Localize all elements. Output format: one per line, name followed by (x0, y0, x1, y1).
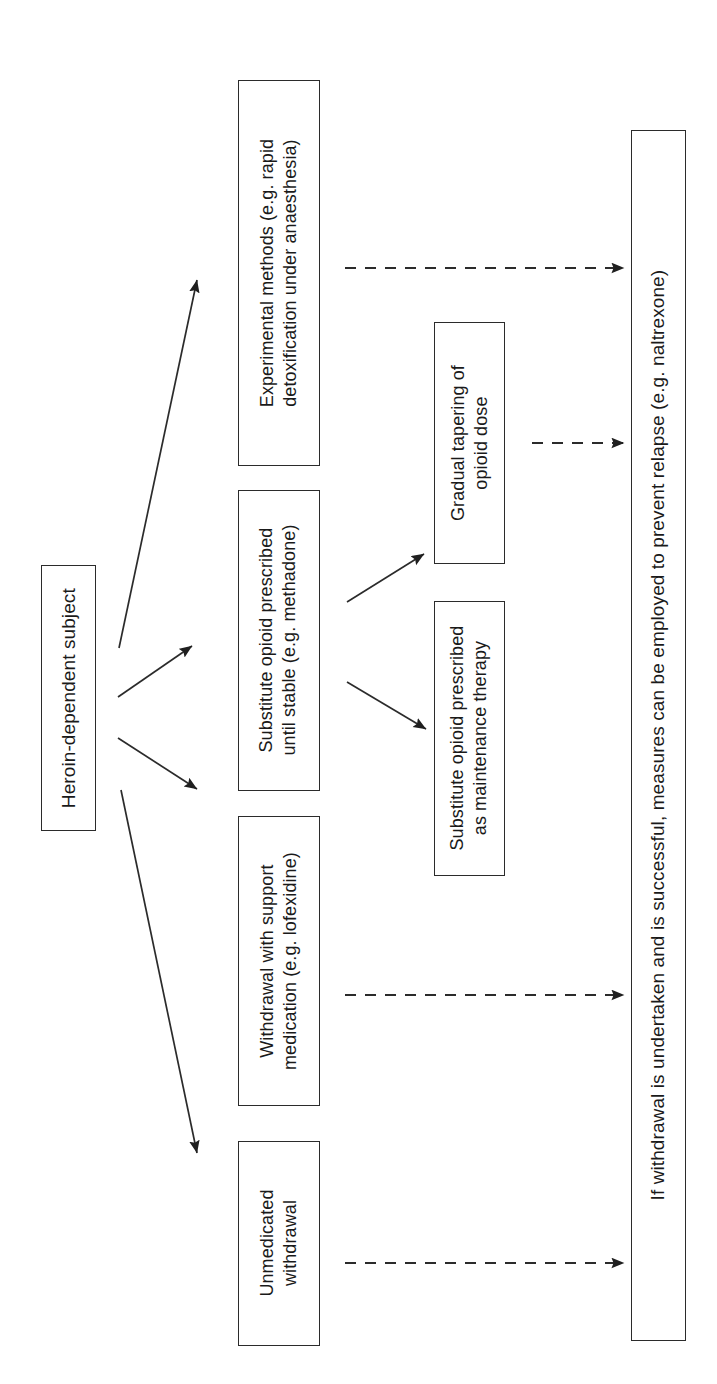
node-label-withdrawal-support: Withdrawal with support medication (e.g.… (256, 852, 302, 1070)
node-label-wrap: Heroin-dependent subject (42, 566, 95, 830)
node-gradual-tapering-of-opioid-dose[interactable]: Gradual tapering of opioid dose (434, 322, 505, 564)
node-label-tapering: Gradual tapering of opioid dose (446, 365, 492, 521)
node-label-outcome: If withdrawal is undertaken and is succe… (646, 270, 670, 1201)
node-label-wrap: Substitute opioid prescribed until stabl… (239, 491, 319, 790)
edge-source-to-withdrawal-support (118, 738, 197, 789)
node-label-substitute-stable: Substitute opioid prescribed until stabl… (256, 525, 302, 756)
edge-substitute-to-maintenance (347, 682, 426, 729)
node-unmedicated-withdrawal[interactable]: Unmedicated withdrawal (238, 1141, 320, 1346)
node-label-wrap: Experimental methods (e.g. rapid detoxif… (239, 81, 319, 465)
node-label-wrap: If withdrawal is undertaken and is succe… (632, 131, 685, 1340)
node-label-wrap: Unmedicated withdrawal (239, 1142, 319, 1345)
node-label-wrap: Substitute opioid prescribed as maintena… (435, 602, 504, 875)
edge-source-to-unmedicated (121, 790, 197, 1153)
edge-source-to-substitute-stable (118, 646, 192, 697)
node-experimental-methods[interactable]: Experimental methods (e.g. rapid detoxif… (238, 80, 320, 466)
edge-substitute-to-tapering (347, 554, 424, 602)
node-heroin-dependent-subject[interactable]: Heroin-dependent subject (41, 565, 96, 831)
node-label-experimental: Experimental methods (e.g. rapid detoxif… (256, 139, 302, 407)
node-substitute-opioid-maintenance[interactable]: Substitute opioid prescribed as maintena… (434, 601, 505, 876)
node-label-maintenance: Substitute opioid prescribed as maintena… (446, 626, 492, 851)
node-relapse-prevention-outcome[interactable]: If withdrawal is undertaken and is succe… (631, 130, 686, 1341)
edge-layer (0, 0, 717, 1384)
node-label-wrap: Withdrawal with support medication (e.g.… (239, 817, 319, 1105)
node-withdrawal-with-support-medication[interactable]: Withdrawal with support medication (e.g.… (238, 816, 320, 1106)
node-label-source: Heroin-dependent subject (56, 588, 80, 808)
node-label-unmedicated: Unmedicated withdrawal (256, 1190, 302, 1297)
node-substitute-opioid-until-stable[interactable]: Substitute opioid prescribed until stabl… (238, 490, 320, 791)
node-label-wrap: Gradual tapering of opioid dose (435, 323, 504, 563)
edge-source-to-experimental (119, 280, 197, 648)
flowchart-canvas: Heroin-dependent subject Experimental me… (0, 0, 717, 1384)
